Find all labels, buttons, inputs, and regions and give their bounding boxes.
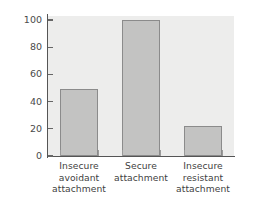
x-axis-category-label-line: Insecure [172,160,234,172]
y-tick-label: 60 [0,69,42,79]
x-axis-category-label-line: attachment [48,183,110,195]
x-axis-category-label: Secureattachment [110,160,172,183]
x-tick-mark [160,150,161,156]
x-axis-category-label: Insecureavoidantattachment [48,160,110,195]
x-tick-mark [184,150,185,156]
y-tick-label: 100 [0,15,42,25]
y-tick-label: 40 [0,97,42,107]
bar-chart-figure: Number of observations 020406080100 Inse… [0,0,260,210]
x-axis-line [47,156,235,157]
y-axis-line [47,14,48,158]
x-axis-category-label-line: attachment [172,183,234,195]
y-tick-label: 20 [0,124,42,134]
bar [60,89,97,156]
x-axis-category-label-line: Insecure [48,160,110,172]
x-tick-mark [60,150,61,156]
x-tick-mark [122,150,123,156]
x-axis-category-label-line: resistant [172,172,234,184]
x-axis-category-label-line: avoidant [48,172,110,184]
bar [122,20,159,156]
y-tick-label: 80 [0,42,42,52]
y-tick-label: 0 [0,151,42,161]
x-tick-mark [222,150,223,156]
bar [184,126,221,156]
x-axis-category-label-line: Secure [110,160,172,172]
x-tick-mark [98,150,99,156]
x-axis-category-label: Insecureresistantattachment [172,160,234,195]
x-axis-category-label-line: attachment [110,172,172,184]
